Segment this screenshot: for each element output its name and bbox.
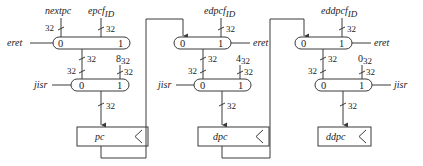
mux-port-0: 0 — [321, 80, 326, 91]
input-edpcf-label: edpcfID — [204, 5, 236, 19]
select-eret-label: eret — [253, 37, 268, 48]
width-label: 32 — [67, 66, 76, 76]
width-label: 32 — [124, 67, 133, 77]
mux-port-0: 0 — [180, 38, 185, 49]
select-jisr-label: jisr — [32, 79, 47, 90]
width-label: 32 — [45, 23, 54, 33]
width-label: 32 — [106, 24, 115, 34]
mux-port-1: 1 — [118, 38, 123, 49]
width-label: 32 — [188, 66, 197, 76]
const-4-label: 432 — [236, 53, 250, 66]
register-pc — [77, 127, 148, 146]
input-eddpcf-label: eddpcfID — [321, 5, 358, 19]
select-eret-label: eret — [374, 37, 389, 48]
mux-port-1: 1 — [218, 38, 223, 49]
width-label: 32 — [244, 67, 253, 77]
datapath-diagram: nextpc epcfID 32 32 0 1 eret 32 32 832 3… — [0, 0, 423, 166]
const-0-label: 032 — [358, 53, 372, 66]
mux-port-0: 0 — [79, 80, 84, 91]
register-dpc — [198, 127, 269, 146]
mux-port-1: 1 — [238, 80, 243, 91]
width-label: 32 — [106, 101, 115, 111]
width-label: 32 — [347, 24, 356, 34]
column-ddpc: eddpcfID 32 0 1 eret 32 32 032 32 0 1 ji… — [295, 5, 407, 146]
const-8-label: 832 — [116, 53, 130, 66]
width-label: 32 — [366, 67, 375, 77]
column-pc: nextpc epcfID 32 32 0 1 eret 32 32 832 3… — [7, 5, 183, 158]
width-label: 32 — [87, 54, 96, 64]
mux-port-0: 0 — [301, 38, 306, 49]
mux-port-1: 1 — [359, 80, 364, 91]
width-label: 32 — [226, 24, 235, 34]
column-dpc: edpcfID 32 0 1 eret 32 32 432 32 0 1 jis… — [156, 5, 304, 158]
register-pc-label: pc — [94, 131, 105, 142]
register-dpc-label: dpc — [213, 131, 228, 142]
mux-port-1: 1 — [339, 38, 344, 49]
mux-port-1: 1 — [117, 80, 122, 91]
input-nextpc-label: nextpc — [45, 5, 72, 16]
input-epcf-label: epcfID — [88, 5, 115, 19]
width-label: 32 — [328, 54, 337, 64]
select-eret-label: eret — [7, 37, 22, 48]
width-label: 32 — [348, 101, 357, 111]
select-jisr-label: jisr — [156, 79, 171, 90]
mux-port-0: 0 — [58, 38, 63, 49]
select-jisr-label: jisr — [392, 79, 407, 90]
width-label: 32 — [208, 54, 217, 64]
register-ddpc-label: ddpc — [326, 131, 346, 142]
width-label: 32 — [227, 101, 236, 111]
width-label: 32 — [308, 66, 317, 76]
mux-port-0: 0 — [200, 80, 205, 91]
